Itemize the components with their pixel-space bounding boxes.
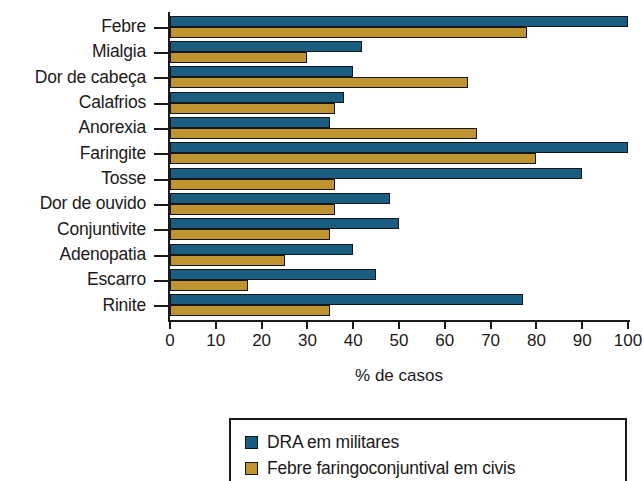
chart-legend: DRA em militaresFebre faringoconjuntival…: [229, 418, 627, 481]
bar: [170, 244, 353, 255]
bar: [170, 168, 582, 179]
bar-group: [170, 65, 628, 90]
x-tick-label: 70: [481, 331, 500, 351]
bar-group: [170, 90, 628, 115]
category-label: Febre: [0, 14, 150, 39]
bar: [170, 280, 248, 291]
x-tick: [535, 320, 537, 329]
bar: [170, 294, 523, 305]
bar: [170, 142, 628, 153]
bar: [170, 179, 335, 190]
bar-row: [170, 280, 628, 291]
legend-item[interactable]: Febre faringoconjuntival em civis: [245, 455, 625, 481]
bar-group: [170, 267, 628, 292]
bar-row: [170, 103, 628, 114]
bar-row: [170, 244, 628, 255]
x-tick: [169, 320, 171, 329]
x-tick-label: 10: [206, 331, 225, 351]
bar: [170, 16, 628, 27]
category-label: Dor de cabeça: [0, 65, 150, 90]
bar-row: [170, 193, 628, 204]
bar: [170, 255, 285, 266]
bar: [170, 41, 362, 52]
bar: [170, 128, 477, 139]
bar-row: [170, 77, 628, 88]
bar-row: [170, 153, 628, 164]
category-label: Conjuntivite: [0, 217, 150, 242]
bar-row: [170, 66, 628, 77]
legend-label: DRA em militares: [267, 432, 399, 453]
x-tick-label: 90: [573, 331, 592, 351]
x-tick: [352, 320, 354, 329]
x-tick: [627, 320, 629, 329]
bar-row: [170, 204, 628, 215]
bar-row: [170, 218, 628, 229]
bar: [170, 218, 399, 229]
bar-row: [170, 255, 628, 266]
x-tick-label: 80: [527, 331, 546, 351]
bar-group: [170, 242, 628, 267]
bar-group: [170, 115, 628, 140]
x-tick: [306, 320, 308, 329]
category-label: Escarro: [0, 267, 150, 292]
category-label: Adenopatia: [0, 242, 150, 267]
bar: [170, 52, 307, 63]
bar-group: [170, 191, 628, 216]
bar-row: [170, 305, 628, 316]
category-label: Tosse: [0, 166, 150, 191]
legend-item[interactable]: DRA em militares: [245, 429, 625, 455]
x-tick: [215, 320, 217, 329]
bar-group: [170, 217, 628, 242]
bar-row: [170, 92, 628, 103]
bar: [170, 269, 376, 280]
x-axis-tick-labels: 0102030405060708090100: [170, 331, 628, 355]
bar-row: [170, 269, 628, 280]
x-tick-label: 30: [298, 331, 317, 351]
bar-group: [170, 166, 628, 191]
bar: [170, 103, 335, 114]
bar: [170, 305, 330, 316]
bars-container: [170, 14, 628, 318]
bar: [170, 153, 536, 164]
bar-row: [170, 117, 628, 128]
bar-row: [170, 294, 628, 305]
x-tick-label: 60: [435, 331, 454, 351]
bar: [170, 193, 390, 204]
legend-label: Febre faringoconjuntival em civis: [267, 458, 515, 479]
bar: [170, 204, 335, 215]
bar-row: [170, 179, 628, 190]
bar-row: [170, 16, 628, 27]
x-tick-label: 20: [252, 331, 271, 351]
x-tick: [490, 320, 492, 329]
bar: [170, 92, 344, 103]
bar: [170, 66, 353, 77]
x-tick: [261, 320, 263, 329]
x-tick-label: 100: [614, 331, 642, 351]
bar-row: [170, 128, 628, 139]
category-axis-labels: FebreMialgiaDor de cabeçaCalafriosAnorex…: [0, 14, 150, 318]
legend-swatch-icon: [245, 436, 258, 449]
bar-row: [170, 229, 628, 240]
category-label: Calafrios: [0, 90, 150, 115]
bar-group: [170, 14, 628, 39]
x-tick: [444, 320, 446, 329]
category-label: Mialgia: [0, 39, 150, 64]
plot-area: FebreMialgiaDor de cabeçaCalafriosAnorex…: [0, 0, 640, 340]
x-tick-label: 0: [165, 331, 174, 351]
category-label: Dor de ouvido: [0, 191, 150, 216]
bar: [170, 77, 468, 88]
bar-row: [170, 52, 628, 63]
category-label: Rinite: [0, 293, 150, 318]
x-tick: [581, 320, 583, 329]
bar-row: [170, 41, 628, 52]
bar: [170, 27, 527, 38]
bar-group: [170, 141, 628, 166]
x-axis-title: % de casos: [170, 366, 628, 386]
bar: [170, 117, 330, 128]
bar-row: [170, 142, 628, 153]
category-label: Anorexia: [0, 115, 150, 140]
bar-group: [170, 39, 628, 64]
bar-row: [170, 168, 628, 179]
x-tick: [398, 320, 400, 329]
